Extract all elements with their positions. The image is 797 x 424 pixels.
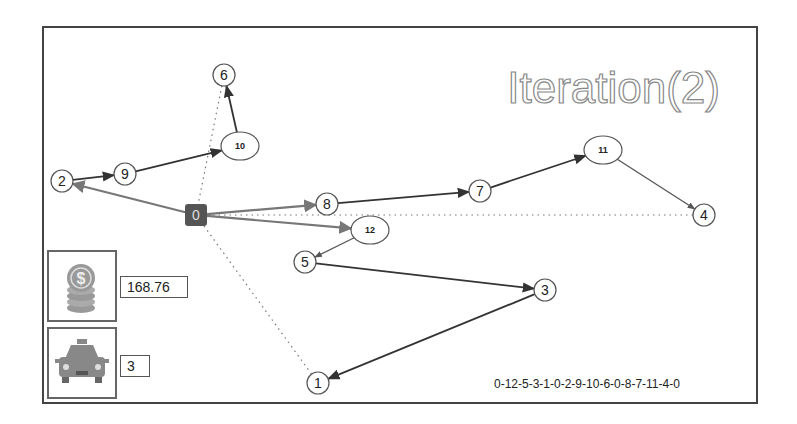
cost-icon-panel: $	[47, 250, 117, 322]
customer-node-3[interactable]: 3	[534, 279, 556, 301]
customer-node-10[interactable]: 10	[221, 132, 259, 160]
customer-node-11[interactable]: 11	[584, 136, 622, 164]
edge-2-9	[73, 175, 114, 180]
edge-8-7	[338, 192, 469, 203]
edge-1-0	[202, 224, 311, 374]
customer-node-8[interactable]: 8	[316, 193, 338, 215]
edge-0-2	[73, 184, 186, 213]
edge-6-0	[198, 86, 222, 204]
node-label: 11	[598, 145, 608, 155]
customer-node-5[interactable]: 5	[294, 251, 316, 273]
node-label: 10	[235, 141, 245, 151]
nodes-layer: 0123456789101112	[51, 64, 715, 394]
edge-12-5	[315, 238, 354, 257]
svg-text:$: $	[77, 270, 86, 287]
edge-10-6	[226, 86, 236, 132]
edge-0-12	[207, 216, 351, 228]
node-label: 6	[220, 67, 228, 83]
node-label: 1	[314, 375, 322, 391]
depot-node[interactable]: 0	[185, 204, 207, 226]
node-label: 5	[301, 254, 309, 270]
node-label: 4	[700, 207, 708, 223]
iteration-title: Iteration(2)	[507, 63, 720, 112]
vehicles-icon-panel	[47, 327, 117, 399]
node-label: 8	[323, 196, 331, 212]
node-label: 12	[365, 225, 375, 235]
customer-node-12[interactable]: 12	[351, 216, 389, 244]
node-label: 0	[192, 207, 200, 223]
taxi-icon	[49, 329, 115, 397]
edge-0-8	[207, 205, 316, 214]
node-label: 3	[541, 282, 549, 298]
vehicle-count-value: 3	[120, 355, 150, 377]
coins-dollar-icon: $	[49, 252, 115, 320]
route-sequence: 0-12-5-3-1-0-2-9-10-6-0-8-7-11-4-0	[494, 377, 680, 391]
edge-5-3	[316, 263, 534, 288]
customer-node-1[interactable]: 1	[307, 372, 329, 394]
edge-3-1	[328, 294, 535, 379]
edge-9-10	[136, 150, 222, 171]
node-label: 2	[58, 173, 66, 189]
node-label: 9	[121, 166, 129, 182]
edge-11-4	[617, 159, 694, 209]
customer-node-9[interactable]: 9	[114, 163, 136, 185]
customer-node-4[interactable]: 4	[693, 204, 715, 226]
edge-7-11	[490, 156, 585, 188]
customer-node-6[interactable]: 6	[213, 64, 235, 86]
customer-node-7[interactable]: 7	[469, 180, 491, 202]
total-cost-value: 168.76	[120, 276, 188, 298]
customer-node-2[interactable]: 2	[51, 170, 73, 192]
node-label: 7	[476, 183, 484, 199]
